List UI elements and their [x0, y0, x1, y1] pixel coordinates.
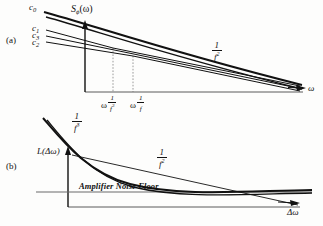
corner-tick-2-num: 1 [137, 95, 145, 102]
corner-tick-1-den: f3 [108, 102, 116, 113]
panel-b-asymptote [72, 155, 298, 205]
level-label-c2-sub: 2 [36, 41, 39, 48]
panel-a-slope-numerator: 1 [212, 41, 222, 50]
corner-tick-2-den: f [137, 102, 145, 113]
panel-b-slope-f2-den-exp: 2 [162, 158, 165, 164]
panel-b-slope-f3-num: 1 [72, 112, 82, 121]
panel-b-x-axis-label: Δω [287, 208, 299, 217]
panel-b-tag: (b) [6, 162, 17, 171]
panel-b-slope-f3-den: f3 [72, 121, 82, 133]
curve-s-phi-total-upper [44, 12, 302, 85]
panel-b-slope-f3-den-exp: 3 [77, 122, 80, 128]
panel-b-slope-f2-den: f2 [157, 157, 167, 169]
s-phi-argument: (ω) [79, 3, 92, 14]
panel-a-y-axis-label: Sϕ(ω) [71, 4, 93, 16]
phase-noise-figure: (a) (b) c0 c1 c3 c2 Sϕ(ω) 1 f2 ω 1 f3 ω … [0, 0, 323, 226]
corner-tick-1-den-exp: 3 [112, 103, 115, 108]
panel-a-tag: (a) [6, 36, 16, 45]
corner-tick-1-fraction: 1 f3 [108, 95, 116, 113]
amplifier-noise-floor-label: Amplifier Noise Floor [79, 182, 159, 191]
panel-b-y-axis-label: L(Δω) [37, 147, 60, 156]
panel-a-artwork [44, 12, 306, 92]
corner-tick-2-fraction: 1 f [137, 95, 145, 113]
corner-tick-label-2: ω 1 f [130, 95, 144, 113]
figure-canvas [0, 0, 323, 226]
panel-b-slope-label-f2: 1 f2 [157, 148, 167, 170]
panel-a-omega-arrow-shaft [288, 88, 303, 89]
panel-b-slope-f3-fraction: 1 f3 [72, 112, 82, 133]
panel-b-slope-label-f3: 1 f3 [72, 112, 82, 134]
corner-tick-2-base: ω [130, 100, 136, 110]
curve-c1 [46, 30, 300, 86]
panel-a-x-axis-label: ω [308, 84, 314, 93]
corner-tick-1-base: ω [101, 100, 107, 110]
level-label-c0: c0 [29, 3, 36, 14]
corner-tick-label-1: ω 1 f3 [101, 95, 116, 113]
level-label-c2: c2 [32, 38, 39, 49]
curve-c3 [46, 36, 300, 89]
panel-a-slope-fraction: 1 f2 [212, 41, 222, 62]
corner-tick-1-num: 1 [108, 95, 116, 102]
panel-b-slope-f2-num: 1 [157, 148, 167, 157]
panel-a-slope-denominator: f2 [212, 50, 222, 62]
level-label-c0-sub: 0 [33, 6, 36, 13]
panel-a-slope-label: 1 f2 [212, 41, 222, 63]
corner-tick-2-den-base: f [140, 105, 142, 113]
panel-b-slope-f2-fraction: 1 f2 [157, 148, 167, 169]
panel-a-slope-den-exponent: 2 [217, 51, 220, 57]
